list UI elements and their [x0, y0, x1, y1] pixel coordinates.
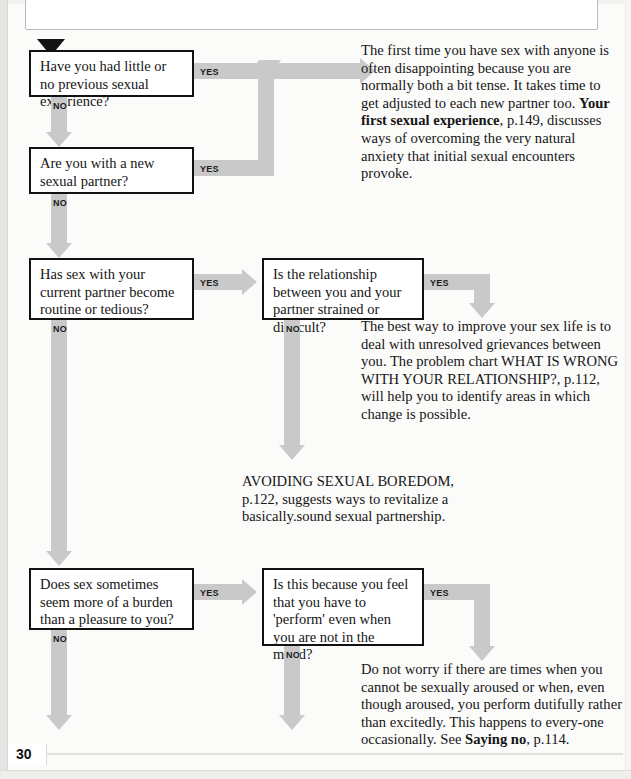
no-arrow-4-head [279, 445, 305, 460]
no-arrow-3-head [46, 551, 72, 566]
question-box-2[interactable]: Are you with a new sexual partner? [29, 147, 194, 194]
question-box-2-text: Are you with a new sexual partner? [40, 155, 154, 189]
question-box-6[interactable]: Is this because you feel that you have t… [262, 568, 424, 646]
footer-rule [46, 753, 623, 755]
yes-label-4: YES [430, 278, 449, 288]
first-experience-arrow-stem [258, 63, 362, 79]
question-box-4[interactable]: Is the relationship between you and your… [262, 258, 424, 320]
no-arrow-5-head [46, 715, 72, 730]
yes-arrow-4-elbow [474, 274, 490, 304]
question-box-5[interactable]: Does sex sometimes seem more of a burden… [29, 568, 194, 630]
advice-performance: Do not worry if there are times when you… [361, 661, 623, 749]
advice-boredom-text: AVOIDING SEXUAL BOREDOM, p.122, suggests… [242, 473, 454, 524]
page-number: 30 [16, 746, 32, 762]
question-box-5-text: Does sex sometimes seem more of a burden… [40, 576, 174, 627]
no-arrow-3-stem [51, 320, 67, 552]
no-arrow-4-stem [284, 320, 300, 446]
advice-relationship-text: The best way to improve your sex life is… [361, 318, 618, 422]
page-left-edge [0, 0, 8, 778]
yes-arrow-4-head [469, 303, 495, 318]
advice-relationship: The best way to improve your sex life is… [361, 318, 623, 424]
page-right-edge [624, 0, 631, 778]
yes-label-1: YES [200, 67, 219, 77]
question-box-3-text: Has sex with your current partner become… [40, 266, 174, 317]
yes-label-6: YES [430, 588, 449, 598]
advice-boredom: AVOIDING SEXUAL BOREDOM, p.122, suggests… [242, 473, 492, 526]
yes-arrow-6-elbow [474, 584, 490, 647]
no-arrow-1-head [46, 132, 72, 147]
no-label-3: NO [53, 324, 67, 334]
yes-label-3: YES [200, 278, 219, 288]
yes-label-5: YES [200, 588, 219, 598]
yes-label-2: YES [200, 164, 219, 174]
no-label-2: NO [53, 198, 67, 208]
advice-first-experience: The first time you have sex with anyone … [361, 42, 619, 183]
yes-merge-trunk [258, 63, 274, 176]
question-box-3[interactable]: Has sex with your current partner become… [29, 258, 194, 320]
page-footer: 30 [8, 744, 623, 766]
no-arrow-6-head [279, 715, 305, 730]
advice-first-experience-part1: The first time you have sex with anyone … [361, 42, 609, 111]
no-label-6: NO [286, 650, 300, 660]
page-bottom-edge [0, 770, 631, 779]
no-arrow-2-head [46, 243, 72, 258]
yes-arrow-6-head [469, 646, 495, 661]
no-label-5: NO [53, 634, 67, 644]
yes-arrow-3-head [242, 269, 257, 295]
chart-title-box: SEX COUNSELLING [25, 0, 598, 30]
no-label-1: NO [53, 101, 67, 111]
yes-arrow-5-head [242, 579, 257, 605]
no-label-4: NO [286, 324, 300, 334]
question-box-1[interactable]: Have you had little or no previous sexua… [29, 50, 194, 97]
